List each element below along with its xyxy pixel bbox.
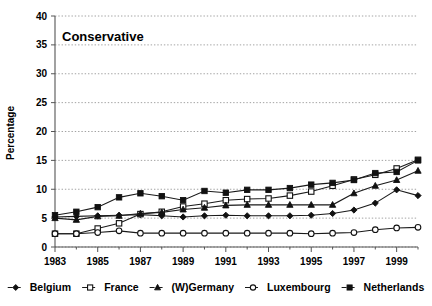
data-point-marker — [266, 196, 271, 201]
legend-label: Luxembourg — [267, 281, 331, 293]
y-axis-tick-labels: 0510152025303540 — [36, 11, 48, 253]
data-point-marker — [329, 210, 335, 216]
x-axis — [55, 247, 418, 252]
data-point-marker — [250, 285, 255, 290]
y-tick-label: 25 — [36, 97, 48, 108]
data-point-marker — [351, 230, 357, 236]
data-point-marker — [244, 187, 249, 192]
data-point-marker — [202, 188, 207, 193]
data-point-marker — [74, 231, 80, 237]
series-line — [55, 227, 418, 233]
data-point-marker — [415, 193, 421, 199]
legend-item-france[interactable]: France — [82, 281, 139, 293]
x-tick-label: 1999 — [386, 256, 409, 267]
data-point-marker — [88, 285, 93, 290]
data-point-marker — [223, 230, 229, 236]
plot-title: Conservative — [62, 29, 144, 44]
data-point-marker — [415, 225, 421, 231]
data-point-marker — [159, 193, 164, 198]
data-point-marker — [287, 185, 292, 190]
x-tick-label: 1989 — [172, 256, 195, 267]
series-netherlands — [52, 158, 420, 218]
data-point-marker — [394, 225, 400, 231]
legend-label: France — [104, 281, 139, 293]
y-tick-label: 20 — [36, 126, 48, 137]
y-tick-label: 0 — [41, 242, 47, 253]
x-tick-label: 1987 — [129, 256, 152, 267]
data-point-marker — [287, 230, 293, 236]
data-point-marker — [180, 230, 186, 236]
data-point-marker — [244, 213, 250, 219]
data-point-marker — [347, 285, 352, 290]
data-point-marker — [351, 207, 357, 213]
y-tick-label: 40 — [36, 11, 48, 22]
series-line — [55, 160, 418, 234]
series-line — [55, 190, 418, 217]
data-point-marker — [266, 230, 272, 236]
data-point-marker — [138, 230, 144, 236]
data-point-marker — [201, 213, 207, 219]
data-point-marker — [116, 221, 121, 226]
data-point-marker — [116, 228, 122, 234]
data-point-marker — [138, 191, 143, 196]
data-point-marker — [116, 195, 121, 200]
data-point-marker — [52, 213, 57, 218]
y-tick-label: 10 — [36, 184, 48, 195]
data-point-marker — [415, 158, 420, 163]
data-point-marker — [202, 230, 208, 236]
y-tick-label: 30 — [36, 68, 48, 79]
legend-item-luxembourg[interactable]: Luxembourg — [245, 281, 331, 293]
data-point-marker — [266, 187, 271, 192]
data-point-marker — [180, 198, 185, 203]
legend-label: (W)Germany — [172, 281, 235, 293]
x-tick-label: 1993 — [257, 256, 280, 267]
legend-item-netherlands[interactable]: Netherlands — [342, 281, 425, 293]
data-point-marker — [74, 209, 79, 214]
data-point-marker — [330, 180, 335, 185]
data-point-marker — [223, 190, 228, 195]
data-point-marker — [394, 187, 400, 193]
conservative-line-chart: 0510152025303540 19831985198719891991199… — [0, 0, 432, 306]
legend-item-belgium[interactable]: Belgium — [8, 281, 71, 293]
data-point-marker — [13, 285, 19, 291]
data-series-group — [52, 157, 421, 236]
legend-item-w-germany[interactable]: (W)Germany — [150, 281, 235, 293]
x-axis-tick-labels: 198319851987198919911993199519971999 — [44, 256, 408, 267]
data-point-marker — [309, 182, 314, 187]
series-line — [55, 171, 418, 220]
chart-container: 0510152025303540 19831985198719891991199… — [0, 0, 432, 306]
data-point-marker — [308, 212, 314, 218]
data-point-marker — [394, 169, 399, 174]
data-point-marker — [223, 212, 229, 218]
data-point-marker — [415, 167, 421, 173]
x-tick-label: 1991 — [215, 256, 238, 267]
x-tick-label: 1985 — [87, 256, 110, 267]
data-point-marker — [287, 213, 293, 219]
data-point-marker — [372, 227, 378, 233]
data-point-marker — [95, 204, 100, 209]
legend-label: Belgium — [30, 281, 71, 293]
gridlines — [55, 16, 418, 247]
data-point-marker — [244, 230, 250, 236]
series-france — [52, 157, 420, 236]
y-tick-label: 5 — [41, 213, 47, 224]
chart-legend: BelgiumFrance(W)GermanyLuxembourgNetherl… — [8, 281, 425, 293]
x-tick-label: 1995 — [300, 256, 323, 267]
data-point-marker — [95, 230, 101, 236]
data-point-marker — [159, 230, 165, 236]
data-point-marker — [308, 231, 314, 237]
data-point-marker — [180, 214, 186, 220]
y-axis-title: Percentage — [5, 106, 16, 160]
data-point-marker — [351, 177, 356, 182]
data-point-marker — [372, 200, 378, 206]
y-tick-label: 35 — [36, 39, 48, 50]
x-tick-label: 1997 — [343, 256, 366, 267]
x-tick-label: 1983 — [44, 256, 67, 267]
legend-label: Netherlands — [364, 281, 425, 293]
data-point-marker — [330, 230, 336, 236]
y-tick-label: 15 — [36, 155, 48, 166]
data-point-marker — [373, 170, 378, 175]
data-point-marker — [287, 193, 292, 198]
data-point-marker — [52, 231, 58, 237]
data-point-marker — [309, 189, 314, 194]
